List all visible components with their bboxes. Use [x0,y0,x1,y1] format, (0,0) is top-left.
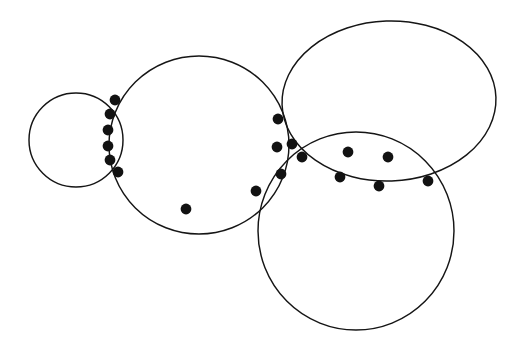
circle-arrangement-diagram [0,0,519,351]
vertex-point-lens-right-vertex [423,176,434,187]
vertex-point-lens-lower-left [335,172,346,183]
vertex-point-left-chain-5 [105,155,116,166]
vertex-point-left-chain-2 [105,109,116,120]
vertex-point-cluster-top [273,114,284,125]
vertex-point-lens-upper-left [343,147,354,158]
vertex-point-cluster-left [272,142,283,153]
vertex-point-lower-left-arc [251,186,262,197]
vertex-point-lens-upper-right [383,152,394,163]
vertex-point-cluster-upper-right [287,139,298,150]
vertex-point-middle-circle-bottom [181,204,192,215]
vertex-point-left-chain-bottom [113,167,124,178]
vertex-point-cluster-lower [276,169,287,180]
vertex-point-cluster-node [297,152,308,163]
figure-canvas [0,0,519,351]
vertex-point-lens-lower-right [374,181,385,192]
vertex-point-left-chain-top [110,95,121,106]
diagram-background [0,0,519,351]
vertex-point-left-chain-3 [103,125,114,136]
vertex-point-left-chain-4 [103,141,114,152]
